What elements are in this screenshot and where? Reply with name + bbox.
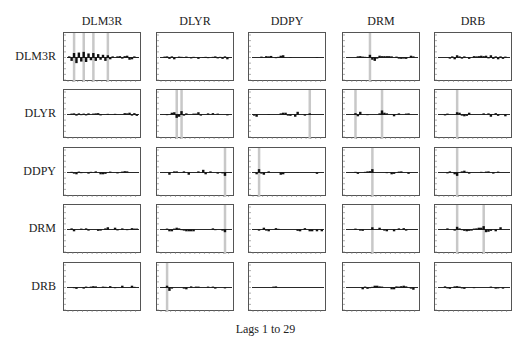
lag-bar xyxy=(393,173,395,174)
lag-bar xyxy=(405,286,407,287)
lag-bar xyxy=(78,53,80,58)
lag-bar xyxy=(258,230,260,231)
lag-bar xyxy=(73,173,75,174)
lag-bar xyxy=(378,228,380,230)
lag-bar xyxy=(133,229,135,230)
lag-bar xyxy=(403,228,405,229)
lag-bar xyxy=(131,228,133,229)
lag-bar xyxy=(309,113,311,114)
lag-bar xyxy=(485,230,487,233)
lag-bar xyxy=(485,56,487,58)
lag-bar xyxy=(258,169,260,172)
lag-bar xyxy=(217,58,219,59)
lag-bar xyxy=(214,230,216,231)
lag-bar xyxy=(116,173,118,174)
lag-bar xyxy=(364,57,366,58)
lag-bar xyxy=(369,171,371,172)
lag-bar xyxy=(70,172,72,173)
lag-bar xyxy=(390,288,392,290)
lag-bar xyxy=(102,173,104,175)
lag-bar xyxy=(78,113,80,114)
lag-bar xyxy=(449,171,451,172)
lag-bar xyxy=(166,286,168,288)
lag-bar xyxy=(275,286,277,287)
lag-bar xyxy=(217,173,219,174)
lag-bar xyxy=(280,56,282,58)
lag-bar xyxy=(173,112,175,114)
lag-bar xyxy=(75,115,77,116)
lag-bar xyxy=(180,230,182,231)
lag-bar xyxy=(75,58,77,64)
lag-bar xyxy=(163,57,165,58)
lag-bar xyxy=(166,229,168,230)
lag-bar xyxy=(361,230,363,231)
lag-bar xyxy=(171,113,173,115)
lag-bar xyxy=(180,111,182,114)
lag-bar xyxy=(75,288,77,289)
lag-bar xyxy=(289,115,291,116)
lag-bar xyxy=(480,56,482,58)
lag-bar xyxy=(482,56,484,57)
lag-bar xyxy=(453,58,455,60)
lag-bar xyxy=(224,230,226,233)
column-label-ddpy: DDPY xyxy=(247,14,327,29)
lag-bar xyxy=(475,228,477,229)
lag-bar xyxy=(183,115,185,116)
lag-bar xyxy=(175,115,177,118)
lag-bar xyxy=(168,173,170,175)
lag-bar xyxy=(209,171,211,172)
lag-bar xyxy=(204,173,206,175)
lag-bar xyxy=(267,230,269,232)
lag-bar xyxy=(359,112,361,115)
lag-bar xyxy=(90,287,92,288)
lag-bar xyxy=(185,113,187,114)
column-label-drb: DRB xyxy=(433,14,513,29)
lag-bar xyxy=(104,228,106,229)
panel-dlm3r-dlyr xyxy=(156,32,234,81)
lag-bar xyxy=(495,230,497,232)
lag-bar xyxy=(168,230,170,232)
lag-bar xyxy=(173,171,175,172)
panel-dlyr-ddpy xyxy=(248,89,326,138)
lag-bar xyxy=(458,287,460,288)
lag-bar xyxy=(265,230,267,231)
lag-bar xyxy=(114,288,116,289)
lag-bar xyxy=(185,57,187,58)
lag-bar xyxy=(296,112,298,115)
lag-bar xyxy=(403,58,405,59)
lag-bar xyxy=(376,286,378,288)
lag-bar xyxy=(260,57,262,58)
lag-bar xyxy=(412,56,414,57)
lag-bar xyxy=(468,113,470,115)
lag-bar xyxy=(97,54,99,57)
lag-bar xyxy=(386,230,388,232)
lag-bar xyxy=(75,173,77,175)
lag-bar xyxy=(126,230,128,231)
lag-bar xyxy=(359,56,361,57)
lag-bar xyxy=(267,56,269,57)
lag-bar xyxy=(102,55,104,58)
panel-ddpy-drb xyxy=(434,147,512,196)
lag-bar xyxy=(207,287,209,288)
lag-bar xyxy=(369,288,371,289)
lag-bar xyxy=(304,228,306,229)
lag-bar xyxy=(107,114,109,115)
lag-bar xyxy=(197,112,199,114)
lag-bar xyxy=(463,56,465,57)
lag-bar xyxy=(354,229,356,230)
lag-bar xyxy=(207,58,209,59)
lag-bar xyxy=(466,172,468,173)
lag-bar xyxy=(95,286,97,287)
lag-bar xyxy=(95,113,97,114)
lag-bar xyxy=(487,230,489,232)
lag-bar xyxy=(321,230,323,232)
lag-bar xyxy=(226,115,228,116)
lag-bar xyxy=(192,230,194,232)
lag-bar xyxy=(166,56,168,57)
panel-dlyr-dlm3r xyxy=(63,89,141,138)
lag-bar xyxy=(461,288,463,289)
panel-drb-drb xyxy=(434,262,512,311)
lag-bar xyxy=(366,115,368,116)
lag-bar xyxy=(386,173,388,174)
lag-bar xyxy=(282,55,284,57)
